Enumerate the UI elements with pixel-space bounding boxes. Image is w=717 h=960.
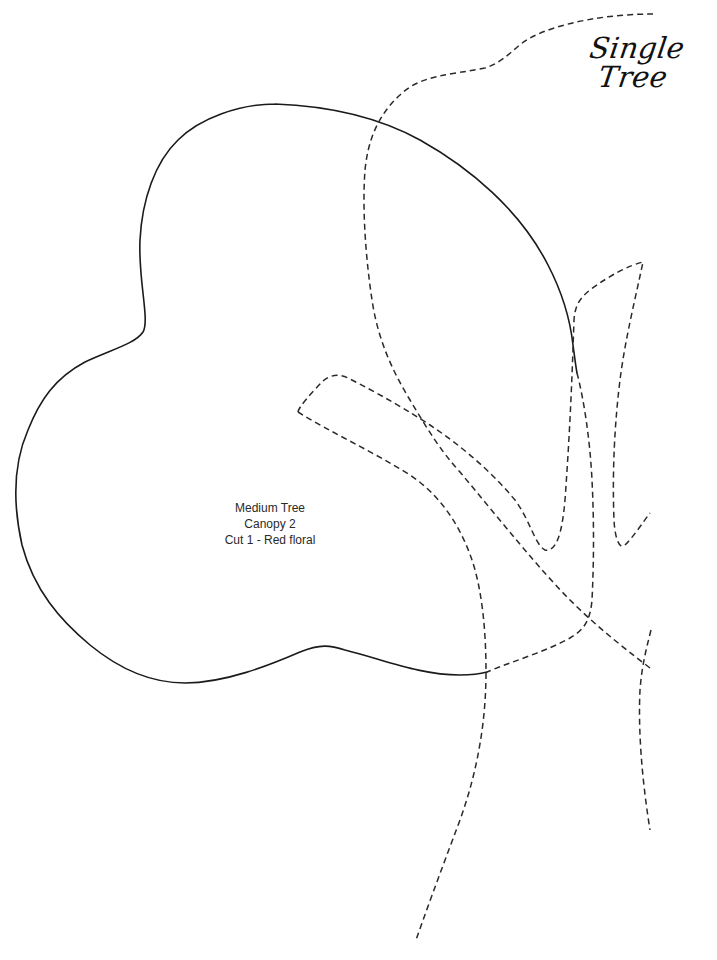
guide-trunk-right [487, 373, 594, 672]
pattern-drawing [0, 0, 717, 960]
piece-label: Medium Tree Canopy 2 Cut 1 - Red floral [190, 500, 350, 548]
pattern-page: Single Tree Medium Tree Canopy 2 Cut 1 -… [0, 0, 717, 960]
piece-part: Canopy 2 [190, 516, 350, 532]
piece-name: Medium Tree [190, 500, 350, 516]
pattern-title: Single Tree [556, 34, 714, 92]
guide-top-swoop [364, 14, 653, 668]
guide-trunk-far-right [639, 630, 651, 830]
guide-trunk-left [298, 412, 486, 940]
canopy-outline [16, 104, 577, 683]
guide-branch-left [298, 262, 650, 550]
piece-cut-instruction: Cut 1 - Red floral [190, 532, 350, 548]
